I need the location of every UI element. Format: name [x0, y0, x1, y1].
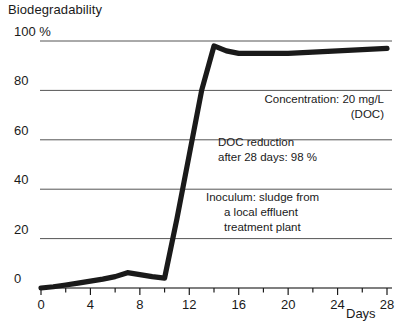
annotation-line: after 28 days: 98 %	[218, 150, 396, 165]
annotation-doc-reduction: DOC reduction after 28 days: 98 %	[218, 135, 396, 165]
x-axis-tick-label: 16	[219, 297, 259, 312]
y-axis-tick-label: 0	[14, 271, 21, 286]
annotation-line: DOC reduction	[218, 135, 396, 150]
x-axis-tick-label: 0	[21, 297, 61, 312]
data-series	[41, 46, 387, 288]
annotation-inoculum: Inoculum: sludge from a local effluent t…	[206, 190, 392, 235]
annotation-concentration: Concentration: 20 mg/L (DOC)	[206, 92, 384, 122]
x-axis-tick-label: 20	[268, 297, 308, 312]
x-axis-title: Days	[346, 306, 376, 321]
x-axis-tick-label: 4	[70, 297, 110, 312]
annotation-line: (DOC)	[206, 107, 384, 122]
x-axis	[41, 288, 387, 295]
biodegradability-chart: Biodegradability 020406080100 % 04812162…	[0, 0, 399, 332]
plot-area	[0, 0, 399, 332]
x-axis-tick-label: 12	[169, 297, 209, 312]
y-axis-tick-label: 80	[14, 73, 28, 88]
series-line	[41, 46, 387, 288]
y-axis-tick-label: 60	[14, 123, 28, 138]
annotation-line: Inoculum: sludge from	[206, 190, 392, 205]
annotation-line: treatment plant	[206, 220, 392, 235]
x-axis-tick-label: 8	[120, 297, 160, 312]
y-axis-tick-label: 40	[14, 172, 28, 187]
annotation-line: a local effluent	[206, 205, 392, 220]
annotation-line: Concentration: 20 mg/L	[206, 92, 384, 107]
y-axis-tick-label: 20	[14, 222, 28, 237]
y-axis-tick-label: 100 %	[14, 24, 51, 39]
